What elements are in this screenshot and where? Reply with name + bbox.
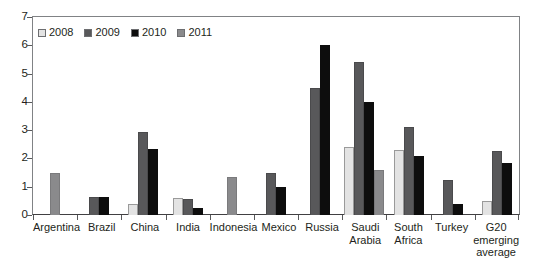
x-axis-category-label: Turkey — [430, 221, 473, 259]
y-tick-label: 3 — [2, 124, 28, 136]
x-tick-mark — [431, 215, 432, 220]
bar-group-bars — [121, 17, 165, 215]
x-axis-category-label: Brazil — [80, 221, 123, 259]
bar — [344, 147, 354, 215]
y-axis: 01234567 — [0, 0, 28, 269]
y-tick-mark — [27, 215, 32, 216]
bar — [482, 201, 492, 215]
bar — [138, 132, 148, 215]
x-axis-category-label: G20 emerging average — [473, 221, 519, 259]
x-axis-category-label: Saudi Arabia — [344, 221, 387, 259]
bar — [99, 197, 109, 215]
bar-group — [77, 17, 121, 215]
x-tick-mark — [298, 215, 299, 220]
y-tick-label: 6 — [2, 39, 28, 51]
bar — [128, 204, 138, 215]
bar — [89, 197, 99, 215]
bar-group — [387, 17, 431, 215]
bar-group-bars — [166, 17, 210, 215]
y-tick-label: 2 — [2, 152, 28, 164]
plot-area — [33, 17, 519, 215]
x-tick-mark — [166, 215, 167, 220]
bar-group-bars — [387, 17, 431, 215]
bar-group-bars — [254, 17, 298, 215]
bar — [354, 62, 364, 215]
legend-item: 2008 — [38, 27, 73, 38]
y-tick-label: 0 — [2, 209, 28, 221]
legend-label: 2009 — [95, 27, 119, 38]
x-tick-mark — [518, 215, 519, 220]
x-axis-category-label: Argentina — [33, 221, 80, 259]
bar-group-bars — [77, 17, 121, 215]
bar — [148, 149, 158, 215]
bar — [310, 88, 320, 215]
x-tick-mark — [77, 215, 78, 220]
legend-swatch-icon — [38, 29, 46, 37]
x-axis-labels: ArgentinaBrazilChinaIndiaIndonesiaMexico… — [33, 221, 519, 259]
bar-group-bars — [475, 17, 519, 215]
legend-item: 2009 — [84, 27, 119, 38]
x-tick-mark — [386, 215, 387, 220]
bar — [364, 102, 374, 215]
x-tick-mark — [475, 215, 476, 220]
bar-group — [431, 17, 475, 215]
bar — [374, 170, 384, 215]
x-axis-category-label: India — [166, 221, 209, 259]
legend-label: 2008 — [49, 27, 73, 38]
bar — [183, 199, 193, 215]
bar — [394, 150, 404, 215]
bar-group — [33, 17, 77, 215]
bar — [173, 198, 183, 215]
bar-group-bars — [298, 17, 342, 215]
bar-chart: 01234567 2008200920102011 ArgentinaBrazi… — [0, 0, 537, 269]
y-tick-label: 1 — [2, 181, 28, 193]
bar-group — [121, 17, 165, 215]
bar-group-bars — [342, 17, 386, 215]
bar — [414, 156, 424, 215]
y-tick-label: 7 — [2, 11, 28, 23]
legend-swatch-icon — [177, 29, 185, 37]
bar — [453, 204, 463, 215]
x-axis-category-label: Indonesia — [210, 221, 258, 259]
legend-item: 2011 — [177, 27, 212, 38]
bar-group — [210, 17, 254, 215]
bar — [227, 177, 237, 215]
bar-group — [166, 17, 210, 215]
bar-group — [254, 17, 298, 215]
bar — [492, 151, 502, 215]
bar-group — [342, 17, 386, 215]
bar — [404, 127, 414, 215]
x-tick-mark — [121, 215, 122, 220]
x-tick-mark — [342, 215, 343, 220]
bar-groups — [33, 17, 519, 215]
bar — [320, 45, 330, 215]
bar — [50, 173, 60, 215]
y-tick-label: 4 — [2, 96, 28, 108]
x-tick-mark — [33, 215, 34, 220]
chart-legend: 2008200920102011 — [38, 27, 212, 38]
bar-group-bars — [210, 17, 254, 215]
bar — [276, 187, 286, 215]
bar-group — [298, 17, 342, 215]
x-tick-mark — [210, 215, 211, 220]
x-axis-category-label: China — [123, 221, 166, 259]
legend-swatch-icon — [84, 29, 92, 37]
legend-swatch-icon — [131, 29, 139, 37]
bar-group-bars — [33, 17, 77, 215]
x-axis-category-label: South Africa — [387, 221, 430, 259]
x-axis-category-label: Russia — [301, 221, 344, 259]
y-tick-label: 5 — [2, 68, 28, 80]
bar-group — [475, 17, 519, 215]
legend-item: 2010 — [131, 27, 166, 38]
legend-label: 2011 — [188, 27, 212, 38]
bar — [502, 163, 512, 215]
x-tick-mark — [254, 215, 255, 220]
legend-label: 2010 — [142, 27, 166, 38]
bar — [266, 173, 276, 215]
x-axis-category-label: Mexico — [257, 221, 300, 259]
bar — [443, 180, 453, 215]
bar — [193, 208, 203, 215]
bar-group-bars — [431, 17, 475, 215]
